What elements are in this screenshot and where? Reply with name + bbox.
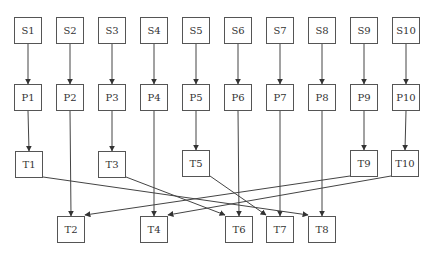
node-s4: S4 <box>140 17 168 44</box>
node-p2: P2 <box>56 84 84 111</box>
arrow-t9-to-t2 <box>85 176 350 215</box>
node-p8: P8 <box>308 84 336 111</box>
node-p1: P1 <box>14 84 42 111</box>
node-p5: P5 <box>182 84 210 111</box>
node-s1: S1 <box>14 17 42 44</box>
node-s5: S5 <box>182 17 210 44</box>
node-p3: P3 <box>98 84 126 111</box>
node-t6: T6 <box>225 216 253 243</box>
node-p7: P7 <box>266 84 294 111</box>
node-s3: S3 <box>98 17 126 44</box>
node-p6: P6 <box>224 84 252 111</box>
node-s2: S2 <box>56 17 84 44</box>
arrow-p1-to-t1 <box>28 111 29 151</box>
node-t10: T10 <box>391 150 419 177</box>
node-s6: S6 <box>224 17 252 44</box>
node-t3: T3 <box>98 151 126 178</box>
node-t2: T2 <box>57 216 85 243</box>
diagram-canvas: S1S2S3S4S5S6S7S8S9S10P1P2P3P4P5P6P7P8P9P… <box>0 0 436 257</box>
node-s8: S8 <box>308 17 336 44</box>
node-p4: P4 <box>140 84 168 111</box>
node-t1: T1 <box>15 151 43 178</box>
node-t8: T8 <box>308 216 336 243</box>
node-p9: P9 <box>350 84 378 111</box>
node-t9: T9 <box>350 150 378 177</box>
arrow-p10-to-t10 <box>405 111 406 150</box>
node-t5: T5 <box>182 150 210 177</box>
node-s9: S9 <box>350 17 378 44</box>
node-p10: P10 <box>392 84 420 111</box>
arrow-p2-to-t2 <box>70 111 71 216</box>
node-s10: S10 <box>392 17 420 44</box>
arrow-t3-to-t6 <box>126 177 225 215</box>
arrow-p6-to-t6 <box>238 111 239 216</box>
node-t7: T7 <box>266 216 294 243</box>
node-t4: T4 <box>140 216 168 243</box>
node-s7: S7 <box>266 17 294 44</box>
